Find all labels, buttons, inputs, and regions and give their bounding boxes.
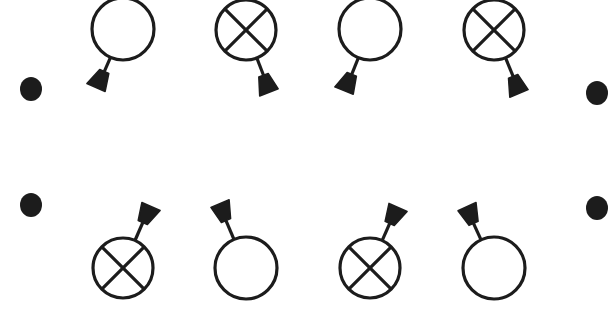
- stalk-line: [382, 223, 390, 240]
- stalk-line: [505, 58, 513, 77]
- stalk-line: [226, 221, 234, 240]
- circle-outline: [215, 237, 277, 299]
- crossed-circle-symbol: [340, 203, 407, 298]
- circle-outline: [463, 237, 525, 299]
- crossed-circle-symbol: [216, 0, 278, 96]
- bottom-row: [20, 193, 608, 299]
- plug-head-icon: [458, 202, 478, 225]
- open-circle-symbol: [458, 202, 525, 299]
- crossed-circle-symbol: [464, 0, 528, 97]
- top-row: [20, 0, 608, 105]
- plug-head-icon: [87, 70, 109, 92]
- terminal-dot: [586, 81, 608, 105]
- stalk-line: [104, 57, 110, 71]
- plug-head-icon: [138, 203, 160, 225]
- circle-outline: [339, 0, 401, 60]
- plug-head-icon: [385, 203, 407, 225]
- open-circle-symbol: [87, 0, 154, 92]
- terminal-dot: [20, 77, 42, 101]
- plug-head-icon: [335, 72, 357, 94]
- open-circle-symbol: [211, 200, 277, 299]
- plug-head-icon: [259, 73, 278, 96]
- stalk-line: [352, 58, 359, 75]
- circle-outline: [92, 0, 154, 60]
- crossed-circle-symbol: [93, 203, 160, 299]
- stalk-line: [474, 223, 482, 239]
- stalk-line: [135, 223, 143, 241]
- stalk-line: [257, 58, 264, 75]
- open-circle-symbol: [335, 0, 401, 94]
- plug-head-icon: [211, 200, 231, 223]
- diagram-canvas: [0, 0, 608, 316]
- terminal-dot: [586, 196, 608, 220]
- terminal-dot: [20, 193, 42, 217]
- plug-head-icon: [509, 75, 529, 98]
